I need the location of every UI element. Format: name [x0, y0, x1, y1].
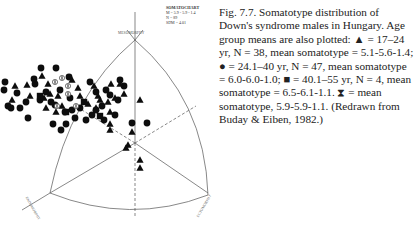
- circle-marker: [87, 79, 94, 86]
- triangle-marker: [128, 128, 135, 135]
- circle-marker: [107, 92, 114, 99]
- circle-marker: [14, 90, 21, 97]
- triangle-marker: [76, 92, 83, 99]
- circle-marker: [48, 99, 55, 106]
- circle-marker: [17, 105, 24, 112]
- circle-marker: [58, 127, 65, 134]
- figure-caption: Fig. 7.7. Somatotype distribution of Dow…: [219, 6, 415, 127]
- axis-label-mesomorphy: MESOMORPHY: [118, 31, 144, 35]
- legend-sdm: SDM = 4.01: [166, 20, 199, 25]
- triangle-marker: [92, 104, 99, 111]
- triangle-marker: [74, 84, 81, 91]
- circle-marker: [1, 87, 8, 94]
- circle-marker: [83, 117, 90, 124]
- circle-marker: [53, 65, 60, 72]
- square-marker: [63, 109, 69, 115]
- triangle-marker: [52, 108, 59, 115]
- triangle-marker: [23, 81, 30, 88]
- circle-marker: [129, 120, 136, 127]
- triangle-marker: [104, 98, 111, 105]
- triangle-marker: [8, 96, 15, 103]
- triangle-marker: [136, 164, 143, 171]
- circle-marker: [2, 79, 9, 86]
- triangle-marker: [107, 80, 114, 87]
- triangle-marker: [136, 96, 143, 103]
- triangle-marker: [120, 90, 127, 97]
- circle-marker: [99, 103, 106, 110]
- square-marker: [97, 113, 103, 119]
- circle-marker: [50, 121, 57, 128]
- circle-marker: [63, 121, 70, 128]
- triangle-marker: [44, 80, 51, 87]
- circle-marker: [72, 115, 79, 122]
- circle-marker: [31, 76, 38, 83]
- triangle-marker: [106, 108, 113, 115]
- circle-marker: [144, 120, 151, 127]
- triangle-marker: [38, 72, 45, 79]
- circle-marker: [8, 105, 15, 112]
- square-marker: [37, 93, 43, 99]
- triangle-marker: [106, 120, 113, 127]
- square-marker: [81, 99, 87, 105]
- triangle-marker: [26, 92, 33, 99]
- data-points: [1, 65, 151, 171]
- triangle-marker: [11, 82, 18, 89]
- circle-marker: [23, 99, 30, 106]
- triangle-marker: [42, 104, 49, 111]
- triangle-marker: [136, 156, 143, 163]
- triangle-marker: [106, 126, 113, 133]
- circle-marker: [112, 112, 119, 119]
- somatochart-plot: [0, 0, 210, 228]
- circle-marker: [25, 115, 32, 122]
- circle-marker: [38, 65, 45, 72]
- somatochart-legend: SOMATOCHART M = 5.9 - 5.9 - 1.4 N = 89 S…: [166, 5, 199, 25]
- circle-marker: [57, 87, 64, 94]
